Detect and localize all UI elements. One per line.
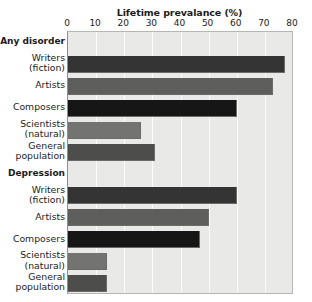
label-line: Artists (35, 79, 65, 90)
bar (68, 253, 107, 270)
x-tick-label: 20 (118, 18, 129, 28)
label-line: Depression (8, 168, 65, 178)
label-line: Scientists (20, 249, 65, 260)
label-line: Composers (13, 101, 65, 112)
group-label: Depression (0, 168, 65, 178)
bar (68, 78, 273, 95)
x-tick-label: 0 (64, 18, 70, 28)
x-axis-tick-labels: 01020304050607080 (0, 18, 312, 30)
category-label: Artists (0, 80, 65, 90)
label-line: population (0, 282, 65, 292)
bar (68, 122, 141, 139)
label-line: Any disorder (0, 36, 65, 46)
label-line: (fiction) (0, 195, 65, 205)
category-label: Generalpopulation (0, 272, 65, 292)
category-label: Writers(fiction) (0, 53, 65, 73)
x-tick-label: 60 (230, 18, 241, 28)
chart-axis-title: Lifetime prevalance (%) (67, 7, 292, 18)
group-label: Any disorder (0, 36, 65, 46)
label-line: Composers (13, 233, 65, 244)
bar-chart: Lifetime prevalance (%) 0102030405060708… (0, 0, 312, 302)
category-label: Generalpopulation (0, 141, 65, 161)
label-line: (natural) (0, 261, 65, 271)
category-label: Scientists(natural) (0, 250, 65, 270)
label-line: (natural) (0, 129, 65, 139)
label-line: (fiction) (0, 63, 65, 73)
bar (68, 144, 155, 161)
category-labels-column: Any disorderWriters(fiction)ArtistsCompo… (0, 31, 65, 294)
x-tick-label: 10 (89, 18, 100, 28)
x-tick-label: 50 (202, 18, 213, 28)
bar (68, 231, 200, 248)
label-line: population (0, 151, 65, 161)
category-label: Writers(fiction) (0, 185, 65, 205)
x-tick-label: 40 (174, 18, 185, 28)
x-tick-label: 70 (258, 18, 269, 28)
x-tick-label: 80 (286, 18, 297, 28)
category-label: Composers (0, 102, 65, 112)
bar (68, 187, 237, 204)
bar (68, 100, 237, 117)
bar (68, 275, 107, 292)
bar (68, 56, 285, 73)
plot-area (67, 31, 293, 294)
category-label: Composers (0, 234, 65, 244)
x-tick-label: 30 (146, 18, 157, 28)
label-line: Writers (32, 184, 65, 195)
category-label: Scientists(natural) (0, 119, 65, 139)
bar (68, 209, 209, 226)
category-label: Artists (0, 212, 65, 222)
label-line: Artists (35, 211, 65, 222)
bars-layer (68, 32, 293, 294)
